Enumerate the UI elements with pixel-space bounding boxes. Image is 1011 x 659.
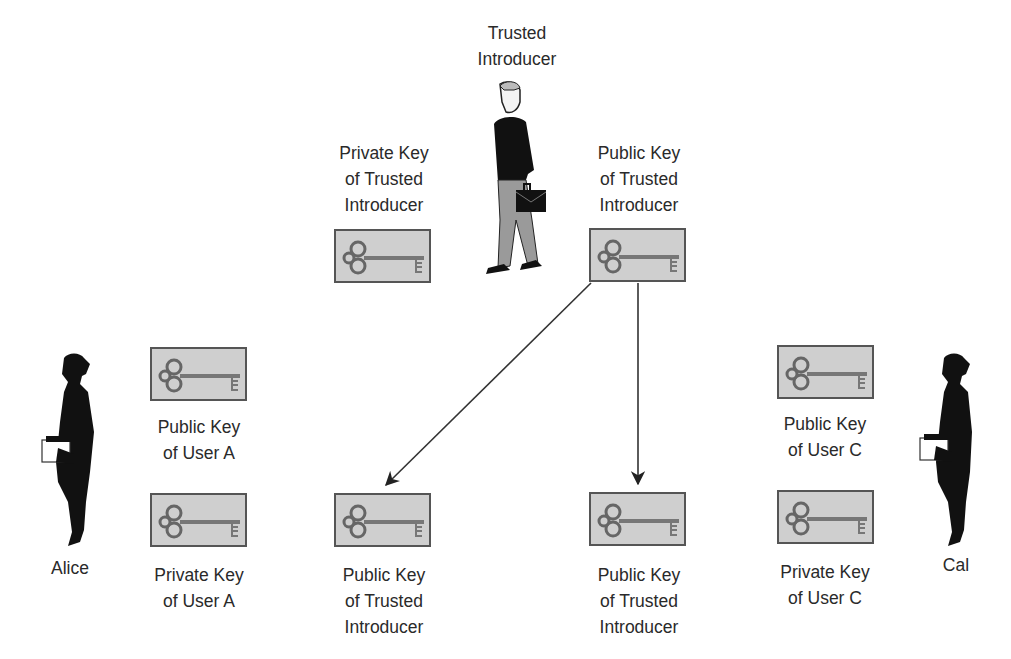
label-line: of User C xyxy=(745,437,905,463)
introducer-label-line2: Introducer xyxy=(437,46,597,72)
label-line: Public Key xyxy=(745,411,905,437)
ti-public-key-copy-alice-label: Public Key of Trusted Introducer xyxy=(304,562,464,640)
label-line: of User A xyxy=(119,440,279,466)
user-a-private-key-box xyxy=(150,493,247,547)
label-line: of Trusted xyxy=(304,588,464,614)
user-a-public-key-box xyxy=(150,347,247,401)
key-icon xyxy=(152,349,249,403)
label-line: of Trusted xyxy=(559,166,719,192)
key-icon xyxy=(779,492,876,546)
label-line: Private Key xyxy=(119,562,279,588)
ti-public-key-copy-cal-box xyxy=(589,492,686,546)
user-a-private-key-label: Private Key of User A xyxy=(119,562,279,614)
user-c-public-key-label: Public Key of User C xyxy=(745,411,905,463)
label-line: of User C xyxy=(745,585,905,611)
label-line: Private Key xyxy=(745,559,905,585)
ti-private-key-label: Private Key of Trusted Introducer xyxy=(304,140,464,218)
alice-figure xyxy=(38,352,100,552)
key-icon xyxy=(152,495,249,549)
key-icon xyxy=(336,495,433,549)
user-c-private-key-box xyxy=(777,490,874,544)
ti-private-key-box xyxy=(334,229,431,283)
label-line: of User A xyxy=(119,588,279,614)
label-line: Introducer xyxy=(559,614,719,640)
introducer-label-line1: Trusted xyxy=(437,20,597,46)
arrow-to-alice-copy xyxy=(386,283,591,485)
label-line: Public Key xyxy=(559,562,719,588)
key-icon xyxy=(591,494,688,548)
ti-public-key-copy-cal-label: Public Key of Trusted Introducer xyxy=(559,562,719,640)
label-line: Introducer xyxy=(304,614,464,640)
key-icon xyxy=(779,347,876,401)
label-line: Public Key xyxy=(304,562,464,588)
label-line: of Trusted xyxy=(559,588,719,614)
cal-figure xyxy=(918,352,980,552)
ti-public-key-box xyxy=(589,228,686,282)
key-icon xyxy=(591,230,688,284)
user-a-public-key-label: Public Key of User A xyxy=(119,414,279,466)
user-c-public-key-box xyxy=(777,345,874,399)
label-line: Introducer xyxy=(304,192,464,218)
label-line: Public Key xyxy=(559,140,719,166)
ti-public-key-copy-alice-box xyxy=(334,493,431,547)
label-line: Introducer xyxy=(559,192,719,218)
ti-public-key-label: Public Key of Trusted Introducer xyxy=(559,140,719,218)
introducer-label: Trusted Introducer xyxy=(437,20,597,72)
label-line: Private Key xyxy=(304,140,464,166)
label-line: Public Key xyxy=(119,414,279,440)
label-line: of Trusted xyxy=(304,166,464,192)
key-icon xyxy=(336,231,433,285)
user-c-private-key-label: Private Key of User C xyxy=(745,559,905,611)
trusted-introducer-figure xyxy=(470,80,550,280)
